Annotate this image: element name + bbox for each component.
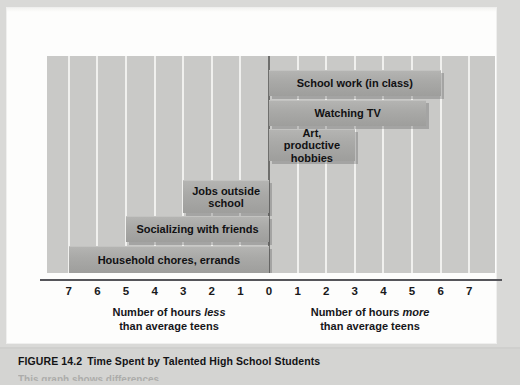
bar-label-5: Household chores, errands <box>92 254 246 267</box>
bar-1: Watching TV <box>269 100 426 126</box>
axis-caption-right-emphasis: more <box>402 306 429 318</box>
x-tick-label-13: 6 <box>430 284 452 298</box>
x-tick-label-2: 5 <box>115 284 137 298</box>
x-axis-tick-labels: 765432101234567 <box>7 284 520 300</box>
axis-caption-left-line2: than average teens <box>69 320 269 334</box>
x-tick-label-4: 3 <box>172 284 194 298</box>
caption-body-sliver: This graph shows differences <box>18 374 268 381</box>
bar-5: Household chores, errands <box>69 246 269 273</box>
bar-label-1: Watching TV <box>309 107 387 120</box>
axis-caption-right: Number of hours more than average teens <box>270 306 470 333</box>
bar-label-3: Jobs outside school <box>186 185 266 210</box>
x-tick-label-11: 4 <box>372 284 394 298</box>
x-tick-label-6: 1 <box>229 284 251 298</box>
x-tick-label-5: 2 <box>201 284 223 298</box>
gridline-plus7 <box>468 56 470 273</box>
x-tick-label-0: 7 <box>58 284 80 298</box>
x-tick-label-1: 6 <box>86 284 108 298</box>
x-tick-label-3: 4 <box>144 284 166 298</box>
x-tick-label-7: 0 <box>258 284 280 298</box>
x-tick-label-14: 7 <box>458 284 480 298</box>
x-tick-label-9: 2 <box>315 284 337 298</box>
bar-3: Jobs outside school <box>183 180 269 213</box>
caption-divider <box>0 347 520 349</box>
figure-caption: FIGURE 14.2Time Spent by Talented High S… <box>18 355 320 367</box>
bar-2: Art, productive hobbies <box>269 129 355 161</box>
bar-label-2: Art, productive hobbies <box>269 127 355 165</box>
bar-label-4: Socializing with friends <box>130 223 264 236</box>
plot-area: School work (in class)Watching TVArt, pr… <box>47 56 495 273</box>
axis-caption-left-emphasis: less <box>204 306 225 318</box>
x-tick-label-12: 5 <box>401 284 423 298</box>
figure-number: FIGURE 14.2 <box>18 355 82 367</box>
axis-caption-right-line2: than average teens <box>270 320 470 334</box>
bar-4: Socializing with friends <box>126 216 269 242</box>
figure-title: Time Spent by Talented High School Stude… <box>87 355 320 367</box>
x-tick-label-8: 1 <box>287 284 309 298</box>
x-axis-line <box>40 279 502 281</box>
axis-caption-left: Number of hours less than average teens <box>69 306 269 333</box>
bar-0: School work (in class) <box>269 70 441 96</box>
x-tick-label-10: 3 <box>344 284 366 298</box>
figure-container: School work (in class)Watching TVArt, pr… <box>0 0 520 385</box>
bar-label-0: School work (in class) <box>291 77 419 90</box>
gridline-minus7 <box>68 56 70 273</box>
axis-caption-right-pre: Number of hours <box>311 306 403 318</box>
page-card: School work (in class)Watching TVArt, pr… <box>7 8 496 343</box>
axis-caption-left-pre: Number of hours <box>112 306 204 318</box>
gridline-minus6 <box>96 56 98 273</box>
